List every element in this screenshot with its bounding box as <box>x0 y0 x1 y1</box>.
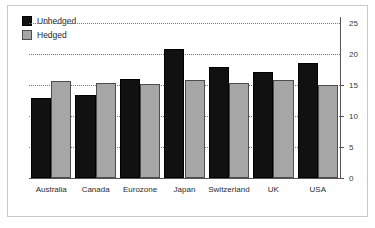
y-tick <box>340 178 344 179</box>
y-tick-label: 20 <box>349 50 358 59</box>
y-tick <box>340 85 344 86</box>
bar-hedged-canada <box>96 83 116 178</box>
bar-hedged-uk <box>273 80 293 178</box>
gridline <box>29 23 340 24</box>
bar-unhedged-japan <box>164 49 184 178</box>
y-tick-label: 25 <box>349 19 358 28</box>
y-tick-label: 10 <box>349 112 358 121</box>
bar-unhedged-usa <box>298 63 318 178</box>
bar-unhedged-switzerland <box>209 67 229 178</box>
bar-hedged-eurozone <box>140 84 160 178</box>
x-axis-line <box>29 178 340 179</box>
y-axis-line <box>340 17 341 178</box>
x-axis-label-eurozone: Eurozone <box>123 185 157 194</box>
y-tick-label: 15 <box>349 81 358 90</box>
chart-figure: Unhedged Hedged 0510152025 AustraliaCana… <box>0 0 375 228</box>
bar-unhedged-eurozone <box>120 79 140 178</box>
bar-unhedged-canada <box>75 95 95 178</box>
y-tick-label: 0 <box>349 174 353 183</box>
bar-hedged-australia <box>51 81 71 178</box>
y-tick <box>340 116 344 117</box>
y-tick <box>340 147 344 148</box>
bar-hedged-japan <box>185 80 205 178</box>
x-axis-label-japan: Japan <box>174 185 196 194</box>
x-axis-label-usa: USA <box>310 185 326 194</box>
x-axis-label-australia: Australia <box>36 185 67 194</box>
gridline <box>29 54 340 55</box>
x-axis-label-uk: UK <box>268 185 279 194</box>
chart-plot-area: 0510152025 <box>29 17 340 178</box>
bar-hedged-switzerland <box>229 83 249 178</box>
x-axis-label-canada: Canada <box>82 185 110 194</box>
bar-hedged-usa <box>318 85 338 179</box>
x-axis-label-switzerland: Switzerland <box>208 185 249 194</box>
bar-unhedged-australia <box>31 98 51 178</box>
bar-unhedged-uk <box>253 72 273 178</box>
y-tick-label: 5 <box>349 143 353 152</box>
